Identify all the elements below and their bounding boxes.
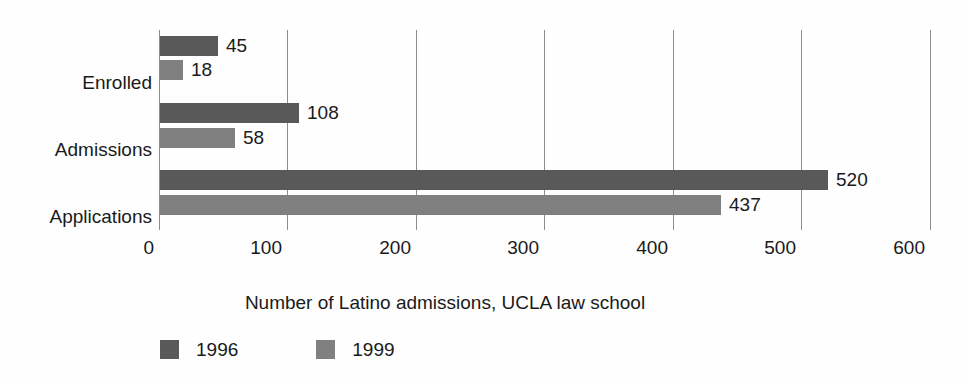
legend-swatch-icon-1999: [316, 340, 335, 359]
bar-value-admissions-1999: 58: [243, 128, 264, 148]
legend-label-1999: 1999: [352, 340, 394, 359]
tick-label-300: 300: [507, 236, 544, 260]
legend-label-1996: 1996: [196, 340, 238, 359]
bar-value-enrolled-1999: 18: [191, 60, 212, 80]
tick-label-100: 100: [250, 236, 287, 260]
bar-chart: Enrolled Admissions Applications 45 18 1…: [0, 0, 968, 381]
axis-title-text: Number of Latino admissions, UCLA law sc…: [245, 292, 645, 314]
legend-item-1999: 1999: [316, 340, 394, 359]
bar-admissions-1996: [160, 103, 299, 123]
tick-label-0: 0: [143, 236, 159, 260]
tick-label-400: 400: [636, 236, 673, 260]
gridline-600: [930, 30, 931, 230]
bar-value-applications-1996: 520: [836, 170, 868, 190]
bar-value-admissions-1996: 108: [307, 103, 339, 123]
bar-value-enrolled-1996: 45: [226, 36, 247, 56]
tick-label-200: 200: [379, 236, 416, 260]
legend: 1996 1999: [160, 338, 473, 360]
legend-item-1996: 1996: [160, 340, 238, 359]
tick-label-600: 600: [893, 236, 930, 260]
axis-title: Number of Latino admissions, UCLA law sc…: [0, 292, 968, 314]
category-axis-labels: Enrolled Admissions Applications: [0, 30, 152, 230]
bar-value-applications-1999: 437: [729, 195, 761, 215]
bar-applications-1996: [160, 170, 828, 190]
gridline-500: [801, 30, 802, 230]
bar-admissions-1999: [160, 128, 235, 148]
legend-swatch-icon-1996: [160, 340, 179, 359]
plot-area: 45 18 108 58 520 437: [159, 30, 930, 230]
bar-applications-1999: [160, 195, 721, 215]
category-label-enrolled: Enrolled: [2, 72, 152, 94]
bar-enrolled-1999: [160, 60, 183, 80]
tick-label-500: 500: [764, 236, 801, 260]
bar-enrolled-1996: [160, 36, 218, 56]
value-axis-tick-labels: 0 100 200 300 400 500 600: [0, 236, 968, 262]
category-label-admissions: Admissions: [2, 139, 152, 161]
category-label-applications: Applications: [2, 206, 152, 228]
